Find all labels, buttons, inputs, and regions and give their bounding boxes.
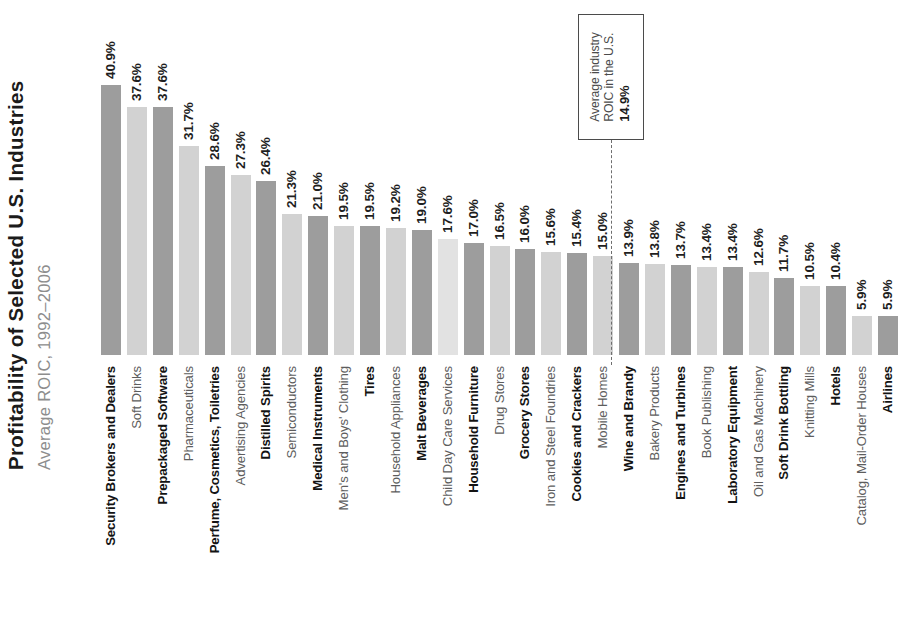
chart-title-block: Profitability of Selected U.S. Industrie… [5,10,75,470]
bar-value-label: 13.4% [725,223,740,261]
bar-value-label: 19.0% [414,186,429,224]
bar-slot: 5.9%Airlines [873,0,902,623]
bar-category-label: Advertising Agencies [234,366,247,485]
bar-category-label: Drug Stores [493,366,506,435]
average-roic-reference-line [611,140,612,365]
bar-value-label: 17.6% [440,195,455,233]
bar[interactable] [697,267,717,355]
bar-category-label: Engines and Turbines [674,366,687,500]
bar-category-label: Pharmaceuticals [182,366,195,461]
bar[interactable] [515,249,535,355]
bar[interactable] [826,286,846,355]
bar-value-label: 19.2% [388,184,403,222]
bar[interactable] [852,316,872,355]
bar-value-label: 13.7% [673,221,688,259]
bar-category-label: Iron and Steel Foundries [544,366,557,507]
bar[interactable] [541,252,561,355]
bar-value-label: 31.7% [181,102,196,140]
bar[interactable] [619,263,639,355]
bar[interactable] [774,278,794,355]
annotation-value: 14.9% [617,32,633,122]
bar-category-label: Tires [363,366,376,397]
bar[interactable] [127,107,147,355]
plot-area: 40.9%Security Brokers and Dealers37.6%So… [88,0,893,623]
bar-value-label: 5.9% [854,280,869,310]
bar-value-label: 26.4% [258,137,273,175]
bar[interactable] [490,246,510,355]
bar[interactable] [464,243,484,355]
bar[interactable] [878,316,898,355]
bar[interactable] [101,85,121,355]
bar-category-label: Security Brokers and Dealers [104,366,117,546]
bar-value-label: 12.6% [751,228,766,266]
bar-value-label: 13.9% [621,219,636,257]
bar-category-label: Soft Drinks [130,366,143,429]
bar-value-label: 15.6% [543,208,558,246]
bar-category-label: Hotels [829,366,842,405]
bar-category-label: Grocery Stores [518,366,531,459]
bar-value-label: 15.4% [569,210,584,248]
bar-category-label: Men's and Boys' Clothing [337,366,350,510]
bar[interactable] [256,181,276,355]
bar[interactable] [231,175,251,355]
bar[interactable] [645,264,665,355]
bar-value-label: 21.0% [310,173,325,211]
bar[interactable] [749,272,769,355]
bar[interactable] [153,107,173,355]
bar-category-label: Malt Beverages [415,366,428,461]
bar-category-label: Child Day Care Services [441,366,454,506]
bar-value-label: 15.0% [595,212,610,250]
bar-value-label: 10.5% [802,242,817,280]
bar-value-label: 11.7% [776,235,791,272]
bar-category-label: Cookies and Crackers [570,366,583,502]
annotation-line-1: Average industry [588,32,602,122]
bar[interactable] [282,214,302,355]
bar-value-label: 19.5% [362,183,377,221]
bar-category-label: Catalog, Mail-Order Houses [855,366,868,526]
bar-category-label: Medical Instruments [311,366,324,491]
bar-category-label: Oil and Gas Machinery [752,366,765,497]
bar[interactable] [671,265,691,355]
bar[interactable] [567,253,587,355]
bar-category-label: Household Furniture [467,366,480,493]
bar-value-label: 5.9% [880,280,895,310]
bar[interactable] [723,267,743,355]
bar-value-label: 40.9% [103,41,118,79]
bar-value-label: 16.5% [492,202,507,240]
chart-title: Profitability of Selected U.S. Industrie… [5,81,28,470]
bar-category-label: Perfume, Cosmetics, Toiletries [208,366,221,553]
bar-category-label: Wine and Brandy [622,366,635,471]
bar[interactable] [800,286,820,355]
average-roic-annotation-box: Average industryROIC in the U.S.14.9% [578,14,644,140]
bar[interactable] [179,146,199,355]
bar-value-label: 21.3% [284,171,299,209]
bar[interactable] [412,230,432,355]
bar[interactable] [438,239,458,355]
bar[interactable] [386,228,406,355]
bar-value-label: 16.0% [517,206,532,244]
annotation-line-2: ROIC in the U.S. [603,32,617,122]
bar-category-label: Distilled Spirits [259,366,272,459]
bar-category-label: Soft Drink Bottling [777,366,790,480]
bar-category-label: Knitting Mills [803,366,816,438]
bar-category-label: Laboratory Equipment [726,366,739,504]
bar-category-label: Mobile Homes [596,366,609,448]
bar-value-label: 13.4% [699,223,714,261]
bar-value-label: 19.5% [336,183,351,221]
bar-category-label: Bakery Products [648,366,661,461]
bar-value-label: 17.0% [466,199,481,237]
bar-category-label: Prepackaged Software [156,366,169,504]
bar-category-label: Airlines [881,366,894,413]
bar[interactable] [334,226,354,355]
bar[interactable] [308,216,328,355]
bar-value-label: 37.6% [129,63,144,101]
bar-value-label: 28.6% [207,122,222,160]
bar-value-label: 37.6% [155,63,170,101]
bar[interactable] [205,166,225,355]
bar-value-label: 13.8% [647,220,662,258]
bar-value-label: 10.4% [828,243,843,281]
bar-category-label: Semiconductors [285,366,298,458]
bar-category-label: Book Publishing [700,366,713,458]
bar[interactable] [360,226,380,355]
